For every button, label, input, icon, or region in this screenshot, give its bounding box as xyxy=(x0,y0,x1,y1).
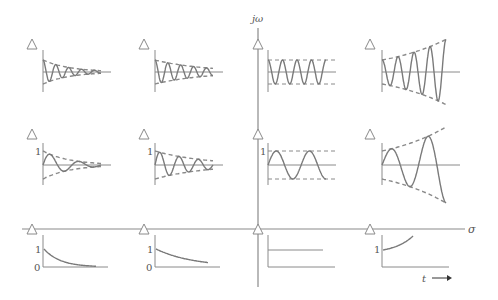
response-panel-r3c3 xyxy=(268,235,335,267)
pole-triangle-icon xyxy=(365,39,375,49)
pole-triangle-icon xyxy=(253,129,263,139)
value-one-label: 1 xyxy=(35,146,41,157)
response-panel-r2c3: 1 xyxy=(260,143,336,185)
value-one-label: 1 xyxy=(260,146,266,157)
time-arrow-icon xyxy=(432,275,452,281)
pole-triangle-icon xyxy=(253,39,263,49)
response-panel-r3c4: 1 xyxy=(374,235,449,267)
time-label: t xyxy=(422,273,427,284)
response-panel-r1c4 xyxy=(382,39,460,104)
sigma-label: σ xyxy=(468,223,476,236)
pole-triangle-icon xyxy=(139,39,149,49)
response-panel-r1c3 xyxy=(268,50,336,92)
response-panel-r1c2 xyxy=(155,50,223,92)
pole-triangle-icon xyxy=(365,129,375,139)
response-panels: 11110101 xyxy=(34,39,460,273)
jomega-label: jω xyxy=(250,13,263,24)
response-panel-r2c2: 1 xyxy=(147,143,223,185)
response-panel-r3c2: 10 xyxy=(146,235,220,273)
value-zero-label: 0 xyxy=(146,262,152,273)
response-panel-r3c1: 10 xyxy=(34,235,108,273)
response-panel-r1c1 xyxy=(43,50,111,92)
value-zero-label: 0 xyxy=(34,262,40,273)
pole-triangle-icon xyxy=(139,129,149,139)
pole-triangle-icon xyxy=(27,39,37,49)
value-one-label: 1 xyxy=(147,146,153,157)
pole-triangle-icon xyxy=(27,129,37,139)
value-one-label: 1 xyxy=(147,244,153,255)
value-one-label: 1 xyxy=(374,244,380,255)
response-panel-r2c1: 1 xyxy=(35,143,111,185)
response-panel-r2c4 xyxy=(382,127,460,203)
value-one-label: 1 xyxy=(35,244,41,255)
pole-response-diagram: σ jω t 11110101 xyxy=(0,0,498,300)
